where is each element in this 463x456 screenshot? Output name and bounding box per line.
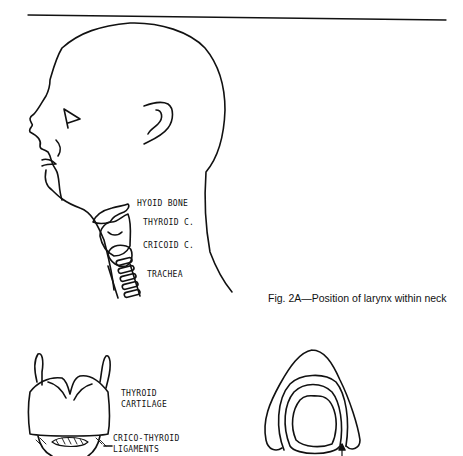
larynx-cross-section-illustration bbox=[265, 350, 360, 456]
label-crico-thyroid-line2: LIGAMENTS bbox=[113, 445, 159, 455]
label-thyroid-cartilage-line1: THYROID bbox=[121, 389, 157, 399]
document-page: HYOID BONE THYROID C. CRICOID C. TRACHEA… bbox=[0, 0, 463, 456]
label-cricoid-c: CRICOID C. bbox=[143, 241, 194, 251]
label-crico-thyroid-line1: CRICO-THYROID bbox=[113, 434, 180, 444]
label-trachea: TRACHEA bbox=[147, 270, 183, 280]
label-thyroid-c: THYROID C. bbox=[143, 218, 194, 228]
thyroid-cartilage-illustration bbox=[29, 354, 113, 456]
figure-caption-2a: Fig. 2A—Position of larynx within neck bbox=[268, 292, 447, 304]
label-thyroid-cartilage-line2: CARTILAGE bbox=[121, 400, 167, 410]
larynx-illustration bbox=[93, 204, 140, 298]
top-rule bbox=[28, 15, 446, 20]
label-hyoid-bone: HYOID BONE bbox=[137, 199, 188, 209]
